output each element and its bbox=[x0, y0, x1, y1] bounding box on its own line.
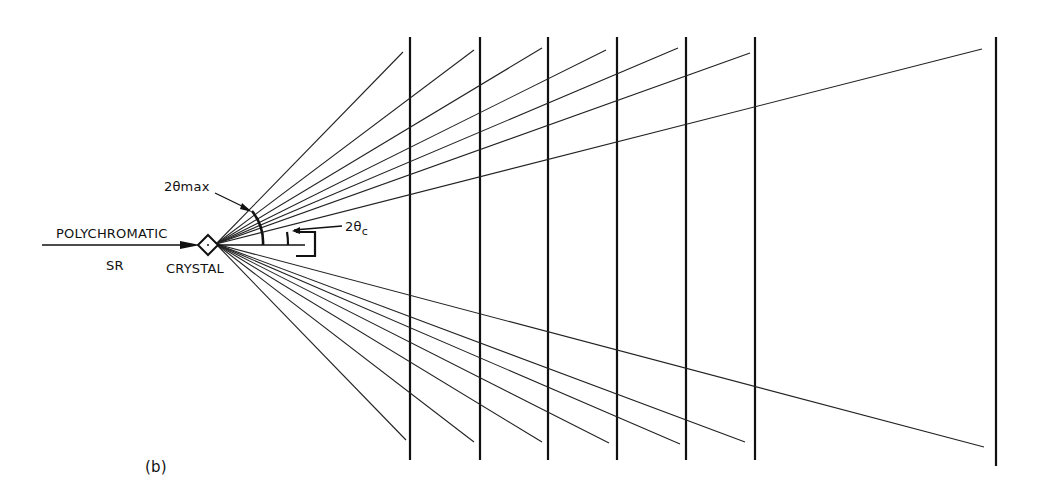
diffracted-ray bbox=[216, 49, 982, 244]
angle-max-label: 2θmax bbox=[164, 179, 210, 194]
sr-label: SR bbox=[106, 258, 124, 273]
angle-c-arc bbox=[287, 232, 288, 245]
diffracted-ray bbox=[216, 244, 609, 443]
diffraction-diagram: POLYCHROMATIC SR CRYSTAL 2θmax 2θc (b) bbox=[0, 0, 1043, 502]
leader-arrow-icon bbox=[240, 203, 252, 212]
diffracted-ray bbox=[216, 48, 678, 244]
angle-c-leader bbox=[294, 226, 342, 230]
diffracted-rays bbox=[216, 48, 984, 447]
polychromatic-label: POLYCHROMATIC bbox=[56, 226, 168, 241]
panel-label: (b) bbox=[145, 458, 167, 476]
diffracted-ray bbox=[216, 244, 680, 444]
diffracted-ray bbox=[216, 244, 984, 447]
crystal-label: CRYSTAL bbox=[166, 261, 224, 276]
diffracted-ray bbox=[216, 53, 750, 244]
beam-stop-icon bbox=[296, 232, 315, 256]
diffracted-ray bbox=[216, 244, 474, 442]
detector-planes bbox=[410, 37, 996, 466]
angle-c-label: 2θc bbox=[345, 219, 368, 238]
crystal-center-dot bbox=[207, 244, 209, 246]
